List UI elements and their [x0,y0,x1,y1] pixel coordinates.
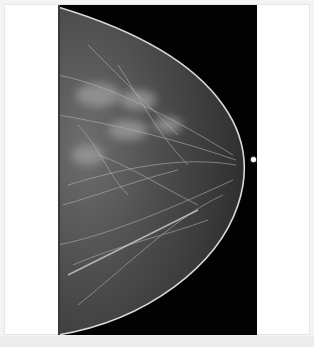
breast-tissue-illustration [58,5,257,335]
nipple-marker [251,157,256,162]
mammogram-image [58,5,257,335]
bottom-strip [0,336,314,347]
